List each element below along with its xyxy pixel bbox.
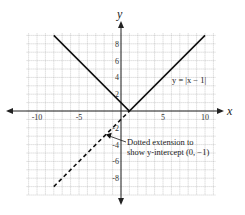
- svg-text:2: 2: [115, 90, 119, 99]
- svg-text:4: 4: [115, 73, 119, 82]
- svg-text:8: 8: [115, 40, 119, 49]
- svg-text:-4: -4: [112, 141, 119, 150]
- x-axis-label: x: [226, 104, 233, 118]
- annotation-line1: Dotted extension to: [127, 137, 194, 147]
- annotation-line2: show y-intercept (0, −1): [127, 147, 209, 157]
- svg-text:-10: -10: [32, 113, 43, 122]
- svg-text:-8: -8: [112, 174, 119, 183]
- svg-text:-2: -2: [112, 124, 119, 133]
- svg-text:10: 10: [201, 113, 209, 122]
- equation-label: y = |x − 1|: [172, 75, 207, 85]
- svg-text:-5: -5: [76, 113, 83, 122]
- graph: -10-55108642-2-4-6-8 y x y = |x − 1| Dot…: [0, 0, 245, 215]
- svg-text:-6: -6: [112, 157, 119, 166]
- y-axis-label: y: [116, 7, 123, 21]
- svg-text:6: 6: [115, 57, 119, 66]
- svg-text:5: 5: [161, 113, 165, 122]
